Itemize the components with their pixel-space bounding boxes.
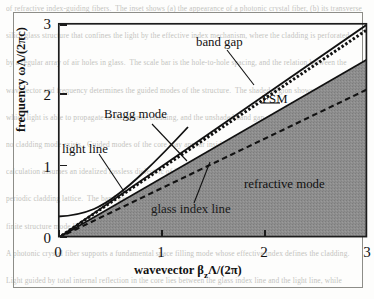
x-tick-label-1: 1: [157, 245, 165, 260]
leader-bragg-mode: [152, 124, 187, 161]
y-tick-label-2: 2: [44, 88, 52, 103]
annotation-light-line: light line: [62, 143, 108, 156]
annotation-band-gap: band gap: [196, 36, 243, 49]
annotation-bragg-mode: Bragg mode: [104, 108, 167, 121]
x-axis-title-prefix: wavevector: [134, 263, 197, 277]
y-tick-label-1: 1: [44, 159, 52, 174]
x-tick-1: [161, 230, 163, 237]
y-tick-3: [60, 24, 67, 26]
figure-root: of refractive index-guiding fibers. The …: [0, 0, 374, 299]
x-axis-title-beta: β: [197, 263, 204, 277]
x-tick-2: [264, 230, 266, 237]
y-axis-title-symbol: ωΛ/(2πc): [14, 27, 28, 76]
y-axis-title-prefix: frequency: [14, 76, 28, 132]
x-tick-3: [366, 230, 368, 237]
y-tick-1: [60, 165, 67, 167]
y-axis-title: frequency ωΛ/(2πc): [14, 27, 29, 132]
x-axis-title-rest: Λ/(2π): [208, 263, 242, 277]
annotation-glass-index-line: glass index line: [151, 203, 231, 216]
x-tick-label-0: 0: [54, 245, 62, 260]
annotation-fsm: FSM: [262, 93, 288, 106]
x-tick-label-2: 2: [260, 245, 268, 260]
x-tick-label-3: 3: [363, 245, 371, 260]
y-tick-label-0: 0: [44, 231, 52, 246]
leader-band-gap: [227, 50, 254, 85]
y-tick-label-3: 3: [44, 17, 52, 32]
leader-light-line: [99, 154, 125, 193]
y-tick-2: [60, 93, 67, 95]
x-axis-title: wavevector βzΛ/(2π): [134, 263, 242, 280]
x-tick-0: [59, 230, 61, 237]
y-tick-0: [60, 236, 67, 238]
annotation-refractive-mode: refractive mode: [244, 178, 325, 191]
